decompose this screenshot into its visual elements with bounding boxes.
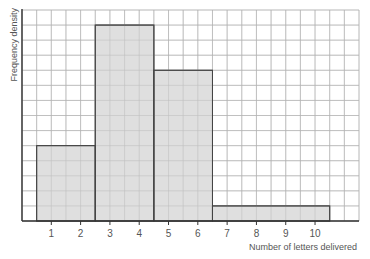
x-tick-label: 4 — [136, 228, 142, 239]
x-tick-label: 9 — [283, 228, 289, 239]
x-tick-label: 3 — [107, 228, 113, 239]
histogram-bars — [22, 10, 359, 221]
x-tick-label: 5 — [166, 228, 172, 239]
x-axis-label: Number of letters delivered — [249, 242, 357, 252]
x-tick-label: 7 — [224, 228, 230, 239]
y-axis-label: Frequency density — [9, 8, 19, 82]
x-tick-label: 2 — [78, 228, 84, 239]
x-tick-label: 10 — [309, 228, 321, 239]
histogram-chart: 12345678910 Number of letters delivered … — [0, 0, 370, 259]
x-tick-label: 1 — [49, 228, 55, 239]
x-tick-label: 6 — [195, 228, 201, 239]
x-tick-label: 8 — [254, 228, 260, 239]
x-axis-ticks: 12345678910 — [49, 221, 322, 239]
